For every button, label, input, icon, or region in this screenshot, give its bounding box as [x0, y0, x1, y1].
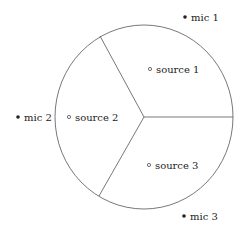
source-circle-icon: [67, 115, 70, 118]
spoke-southwest: [99, 117, 144, 196]
source-circle-icon: [148, 67, 151, 70]
mic-dot-icon: [16, 115, 20, 119]
source-circle-icon: [147, 163, 150, 166]
source-2: source 2: [67, 112, 118, 123]
mic-1-label: mic 1: [191, 12, 219, 23]
mic-2: mic 2: [16, 112, 52, 123]
mic-1: mic 1: [183, 12, 219, 23]
source-2-label: source 2: [75, 112, 118, 123]
source-1: source 1: [148, 64, 199, 75]
mic-3: mic 3: [182, 211, 218, 222]
mic-3-label: mic 3: [190, 211, 218, 222]
diagram-canvas: mic 1 mic 2 mic 3 source 1 source 2 sour…: [0, 0, 245, 230]
source-3-label: source 3: [155, 160, 198, 171]
mic-dot-icon: [183, 15, 187, 19]
mic-dot-icon: [182, 214, 186, 218]
spoke-northwest: [100, 36, 144, 117]
mic-2-label: mic 2: [24, 112, 52, 123]
source-1-label: source 1: [156, 64, 199, 75]
source-3: source 3: [147, 160, 198, 171]
